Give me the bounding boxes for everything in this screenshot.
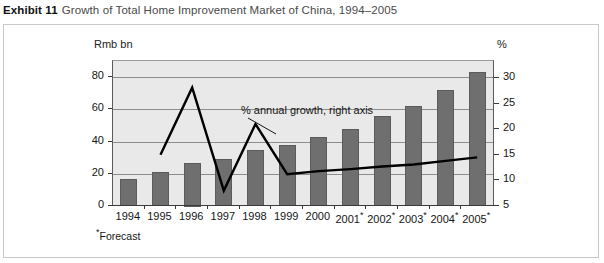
right-tick-label-30: 30 bbox=[503, 70, 515, 82]
left-axis-unit-label: Rmb bn bbox=[94, 38, 133, 50]
right-tick-mark-10 bbox=[494, 179, 499, 180]
right-tick-mark-5 bbox=[494, 205, 499, 206]
left-tick-mark-40 bbox=[108, 141, 112, 142]
plot-area bbox=[112, 60, 494, 206]
x-tick-mark-2003 bbox=[429, 205, 430, 209]
x-tick-mark-1996 bbox=[207, 205, 208, 209]
x-axis-baseline bbox=[112, 205, 494, 206]
right-axis-unit-label: % bbox=[497, 38, 507, 50]
series-annotation-label: % annual growth, right axis bbox=[241, 104, 373, 116]
left-tick-label-40: 40 bbox=[78, 134, 104, 146]
right-tick-mark-25 bbox=[494, 103, 499, 104]
right-tick-label-10: 10 bbox=[503, 172, 515, 184]
x-tick-mark-1994 bbox=[144, 205, 145, 209]
exhibit-title: Growth of Total Home Improvement Market … bbox=[62, 4, 398, 16]
x-tick-mark-2001 bbox=[365, 205, 366, 209]
growth-line-series bbox=[113, 61, 493, 206]
exhibit-number: Exhibit 11 bbox=[3, 4, 58, 16]
x-tick-mark-2000 bbox=[334, 205, 335, 209]
left-tick-mark-0 bbox=[108, 205, 112, 206]
right-tick-label-5: 5 bbox=[503, 198, 509, 210]
right-tick-label-15: 15 bbox=[503, 147, 515, 159]
right-tick-mark-20 bbox=[494, 128, 499, 129]
left-tick-label-0: 0 bbox=[78, 198, 104, 210]
x-tick-mark-2002 bbox=[397, 205, 398, 209]
footnote-text: Forecast bbox=[100, 230, 141, 242]
left-tick-mark-80 bbox=[108, 76, 112, 77]
left-tick-label-60: 60 bbox=[78, 101, 104, 113]
left-tick-mark-60 bbox=[108, 108, 112, 109]
left-tick-label-80: 80 bbox=[78, 69, 104, 81]
exhibit-figure: Exhibit 11Growth of Total Home Improveme… bbox=[0, 0, 604, 263]
x-tick-mark-1995 bbox=[175, 205, 176, 209]
right-tick-label-20: 20 bbox=[503, 121, 515, 133]
x-tick-mark-1998 bbox=[270, 205, 271, 209]
x-tick-mark-1997 bbox=[239, 205, 240, 209]
right-tick-mark-30 bbox=[494, 77, 499, 78]
forecast-footnote: *Forecast bbox=[96, 227, 140, 242]
x-tick-label-2005: 2005* bbox=[454, 210, 498, 225]
right-tick-label-25: 25 bbox=[503, 96, 515, 108]
exhibit-caption: Exhibit 11Growth of Total Home Improveme… bbox=[3, 4, 397, 16]
x-tick-mark-1999 bbox=[302, 205, 303, 209]
left-tick-mark-20 bbox=[108, 173, 112, 174]
left-tick-label-20: 20 bbox=[78, 166, 104, 178]
right-tick-mark-15 bbox=[494, 154, 499, 155]
x-tick-mark-2004 bbox=[460, 205, 461, 209]
